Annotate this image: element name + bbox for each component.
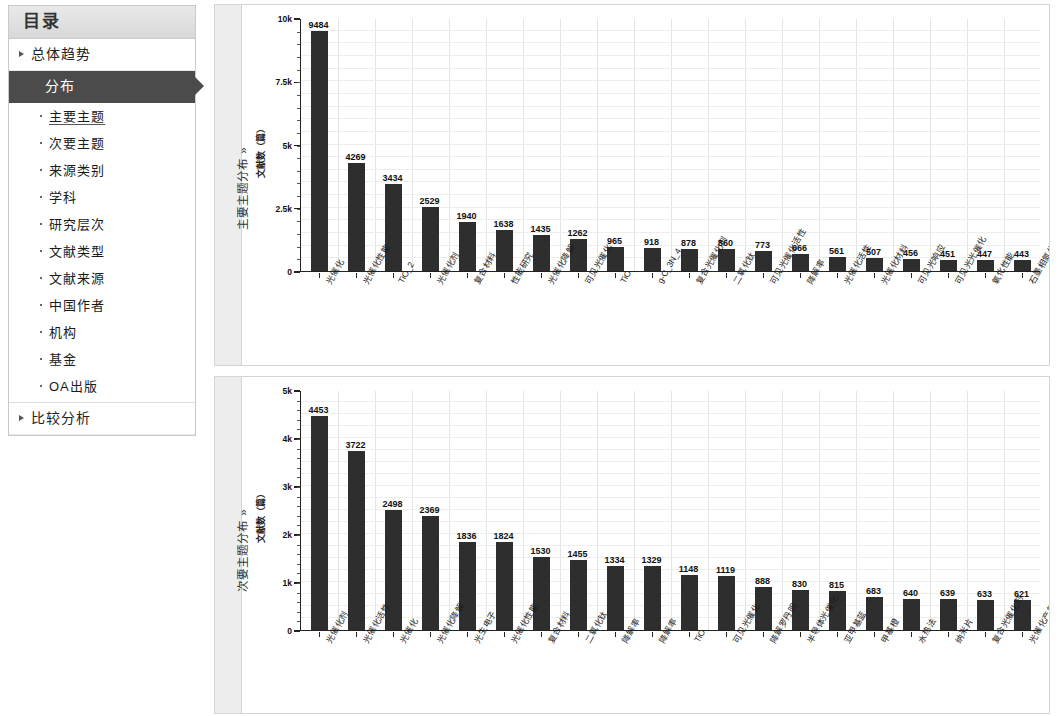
y-axis-minor-tick <box>297 458 300 459</box>
x-axis-tick-mark <box>578 632 579 637</box>
bar[interactable] <box>607 566 624 630</box>
sidebar-subitem-2[interactable]: 来源类别 <box>9 157 195 184</box>
gridline-horizontal <box>301 533 1040 534</box>
bar[interactable] <box>940 260 957 271</box>
bar[interactable] <box>866 258 883 271</box>
bar[interactable] <box>718 576 735 630</box>
x-axis-tick-mark <box>948 273 949 278</box>
x-axis-tick-mark <box>578 273 579 278</box>
gridline-horizontal <box>301 42 1040 43</box>
sidebar-subitem-3[interactable]: 学科 <box>9 184 195 211</box>
bar[interactable] <box>977 260 994 271</box>
bar[interactable] <box>940 599 957 630</box>
bar[interactable] <box>311 31 328 271</box>
bullet-icon <box>40 250 42 252</box>
gridline-horizontal <box>301 581 1040 582</box>
sidebar-subitem-4[interactable]: 研究层次 <box>9 211 195 238</box>
y-axis-minor-tick <box>297 259 300 260</box>
bar-value-label: 9484 <box>297 20 341 30</box>
panel1-side-tab[interactable]: 主要主题分布 » <box>215 5 242 365</box>
sidebar-item-0[interactable]: 总体趋势 <box>9 39 195 71</box>
bar[interactable] <box>533 235 550 271</box>
bar[interactable] <box>866 597 883 630</box>
y-axis-minor-tick <box>297 449 300 450</box>
bar-value-label: 1824 <box>482 531 526 541</box>
x-axis-tick-mark <box>985 273 986 278</box>
bar[interactable] <box>977 600 994 630</box>
x-axis-tick-mark <box>541 632 542 637</box>
gridline-vertical <box>560 391 561 630</box>
gridline-vertical <box>930 19 931 271</box>
gridline-vertical <box>745 391 746 630</box>
gridline-horizontal <box>301 401 1040 402</box>
bar-value-label: 3722 <box>334 440 378 450</box>
sidebar-subitem-8[interactable]: 机构 <box>9 319 195 346</box>
x-axis-tick-mark <box>763 273 764 278</box>
bar[interactable] <box>533 557 550 630</box>
x-axis-tick-mark <box>800 632 801 637</box>
bar[interactable] <box>311 416 328 630</box>
bar[interactable] <box>792 254 809 271</box>
bar[interactable] <box>348 451 365 630</box>
bar-value-label: 621 <box>1000 589 1044 599</box>
y-axis-tick-label: 1k <box>260 578 292 588</box>
bullet-icon <box>40 277 42 279</box>
gridline-vertical <box>523 391 524 630</box>
sidebar-subitem-7[interactable]: 中国作者 <box>9 292 195 319</box>
y-axis-tick-label: 5k <box>260 386 292 396</box>
bar[interactable] <box>1014 260 1031 271</box>
y-axis-minor-tick <box>297 247 300 248</box>
sidebar-subitem-label: 主要主题 <box>49 109 105 125</box>
gridline-vertical <box>671 19 672 271</box>
bar[interactable] <box>348 163 365 271</box>
sidebar-subitem-0[interactable]: 主要主题 <box>9 103 195 130</box>
bullet-icon <box>40 115 42 117</box>
sidebar-subitem-label: 中国作者 <box>49 298 105 314</box>
sidebar-item-2[interactable]: 比较分析 <box>9 403 195 435</box>
sidebar-subitem-5[interactable]: 文献类型 <box>9 238 195 265</box>
gridline-vertical <box>412 19 413 271</box>
gridline-vertical <box>708 391 709 630</box>
sidebar-subitem-label: 机构 <box>49 325 77 341</box>
bar[interactable] <box>422 207 439 271</box>
gridline-horizontal <box>301 207 1040 208</box>
bullet-icon <box>40 331 42 333</box>
x-axis-tick-mark <box>319 632 320 637</box>
bar[interactable] <box>681 249 698 271</box>
bar[interactable] <box>570 560 587 630</box>
sidebar-subitem-label: 来源类别 <box>49 163 105 179</box>
panel2-side-tab[interactable]: 次要主题分布 » <box>215 377 242 713</box>
y-axis-minor-tick <box>297 44 300 45</box>
sidebar-subitem-10[interactable]: OA出版 <box>9 373 195 400</box>
sidebar-item-1[interactable]: 分布 <box>9 71 195 103</box>
bar[interactable] <box>903 259 920 271</box>
bar-value-label: 3434 <box>371 173 415 183</box>
y-axis-minor-tick <box>297 439 300 440</box>
bar[interactable] <box>385 184 402 271</box>
bar[interactable] <box>496 542 513 630</box>
chevron-right-icon <box>19 415 24 421</box>
bar[interactable] <box>903 599 920 630</box>
y-axis-tick-label: 0 <box>260 267 292 277</box>
bar[interactable] <box>422 516 439 630</box>
bar[interactable] <box>496 230 513 271</box>
gridline-horizontal <box>301 413 1040 414</box>
bar[interactable] <box>459 222 476 271</box>
bar[interactable] <box>644 248 661 271</box>
sidebar-subitem-1[interactable]: 次要主题 <box>9 130 195 157</box>
bar[interactable] <box>644 566 661 630</box>
bar[interactable] <box>681 575 698 630</box>
bar[interactable] <box>829 257 846 271</box>
y-axis-minor-tick <box>297 564 300 565</box>
y-axis-minor-tick <box>297 401 300 402</box>
gridline-vertical <box>856 19 857 271</box>
sidebar-subitem-6[interactable]: 文献来源 <box>9 265 195 292</box>
sidebar-subitem-9[interactable]: 基金 <box>9 346 195 373</box>
gridline-horizontal <box>301 80 1040 81</box>
x-axis-tick-mark <box>689 273 690 278</box>
bar[interactable] <box>459 542 476 630</box>
bar-value-label: 1119 <box>704 565 748 575</box>
x-axis-tick-mark <box>948 632 949 637</box>
bullet-icon <box>40 142 42 144</box>
selected-pointer-icon <box>195 77 204 95</box>
